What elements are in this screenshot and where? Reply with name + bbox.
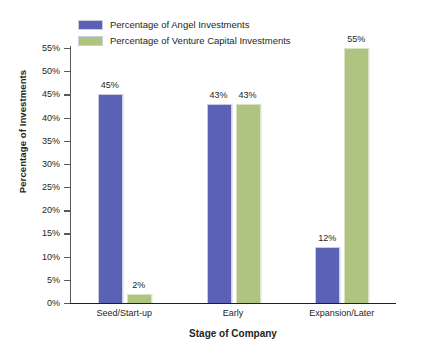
plot-area: 45%2%43%43%12%55%: [70, 48, 396, 303]
bar-value-label: 45%: [101, 80, 119, 90]
bar-venture-capital-0: [127, 294, 151, 303]
bar-venture-capital-1: [236, 104, 260, 303]
bar-value-label: 43%: [209, 90, 227, 100]
legend-label-venture-capital: Percentage of Venture Capital Investment…: [110, 36, 291, 46]
bar-value-label: 2%: [132, 280, 145, 290]
bar-value-label: 12%: [318, 233, 336, 243]
x-axis-category-label: Early: [223, 308, 244, 318]
y-axis-tick-label: 35%: [16, 136, 60, 146]
y-axis-tick: [64, 303, 70, 304]
x-axis-title: Stage of Company: [70, 328, 396, 339]
y-axis-tick-label: 55%: [16, 43, 60, 53]
y-axis-tick-label: 30%: [16, 159, 60, 169]
y-axis-tick-labels: 0%5%10%15%20%25%30%35%40%45%50%55%: [16, 0, 60, 351]
y-axis-tick-label: 10%: [16, 252, 60, 262]
bar-value-label: 55%: [347, 34, 365, 44]
x-axis-category-label: Seed/Start-up: [97, 308, 153, 318]
bar-venture-capital-2: [344, 48, 368, 303]
y-axis-tick-label: 0%: [16, 298, 60, 308]
legend-swatch-venture-capital: [78, 36, 103, 46]
y-axis-tick-label: 40%: [16, 113, 60, 123]
y-axis-tick-label: 20%: [16, 205, 60, 215]
legend-item-angel: Percentage of Angel Investments: [78, 19, 291, 31]
y-axis-tick-label: 5%: [16, 275, 60, 285]
x-axis-category-label: Expansion/Later: [309, 308, 374, 318]
legend-label-angel: Percentage of Angel Investments: [110, 20, 249, 30]
chart-legend: Percentage of Angel Investments Percenta…: [78, 19, 291, 47]
legend-swatch-angel: [78, 20, 103, 30]
bar-value-label: 43%: [238, 90, 256, 100]
y-axis-tick-label: 15%: [16, 228, 60, 238]
bar-chart: Percentage of Angel Investments Percenta…: [0, 0, 432, 351]
legend-item-venture-capital: Percentage of Venture Capital Investment…: [78, 35, 291, 47]
y-axis-tick-label: 25%: [16, 182, 60, 192]
bar-angel-1: [207, 104, 231, 303]
y-axis-tick-label: 45%: [16, 89, 60, 99]
bar-angel-0: [98, 94, 122, 303]
bar-angel-2: [315, 247, 339, 303]
y-axis-tick-label: 50%: [16, 66, 60, 76]
